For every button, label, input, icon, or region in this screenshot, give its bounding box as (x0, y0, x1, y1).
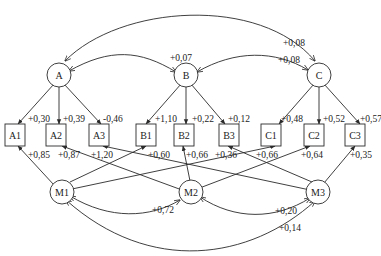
label-corr-m1-m3: +0,14 (279, 223, 301, 233)
factor-b[interactable]: B (174, 63, 198, 87)
label-m1-a1: +0,85 (28, 150, 50, 160)
label-a-a3: -0,46 (103, 114, 123, 124)
method-m3[interactable]: M3 (306, 180, 330, 204)
method-m3-label: M3 (311, 187, 325, 198)
indicator-c2-label: C2 (308, 130, 320, 141)
label-m1-b1: +0,60 (148, 150, 170, 160)
indicator-a1-label: A1 (9, 130, 21, 141)
indicator-a2-label: A2 (50, 130, 62, 141)
indicator-c2[interactable]: C2 (304, 124, 324, 146)
indicator-a3-label: A3 (93, 130, 105, 141)
method-m1[interactable]: M1 (50, 180, 74, 204)
label-m3-b3: +0,36 (215, 150, 237, 160)
indicator-c1-label: C1 (265, 130, 277, 141)
label-b-b2: +0,22 (192, 114, 214, 124)
indicator-c3-label: C3 (349, 130, 361, 141)
label-m3-c3: +0,35 (350, 150, 372, 160)
method-factors: M1 M2 M3 (50, 180, 330, 204)
label-c-c1: +0,48 (281, 114, 303, 124)
indicator-b3[interactable]: B3 (219, 124, 239, 146)
indicator-a2[interactable]: A2 (46, 124, 66, 146)
label-corr-b-c: +0,08 (278, 55, 300, 65)
indicator-b3-label: B3 (223, 130, 235, 141)
indicator-c1[interactable]: C1 (261, 124, 281, 146)
indicator-b1-label: B1 (140, 130, 152, 141)
indicators: A1 A2 A3 B1 B2 B3 C1 C2 C3 (5, 124, 365, 146)
label-m2-b2: +0,66 (186, 150, 208, 160)
label-m1-c1: +0,66 (256, 150, 278, 160)
method-loading-labels: +0,85 +0,87 +1,20 +0,60 +0,66 +0,36 +0,6… (28, 150, 372, 160)
factor-a-label: A (55, 70, 63, 81)
indicator-a3[interactable]: A3 (89, 124, 109, 146)
factor-b-label: B (183, 70, 190, 81)
indicator-b2-label: B2 (178, 130, 190, 141)
latent-factors: A B C (47, 63, 331, 87)
indicator-b2[interactable]: B2 (174, 124, 194, 146)
trait-correlation-labels: +0,07 +0,08 +0,08 (170, 38, 305, 65)
label-corr-m2-m3: +0,20 (275, 206, 297, 216)
method-m2-label: M2 (184, 187, 198, 198)
factor-a[interactable]: A (47, 63, 71, 87)
label-c-c3: +0,57 (360, 114, 381, 124)
label-corr-m1-m2: +0,72 (152, 205, 174, 215)
method-m2[interactable]: M2 (179, 180, 203, 204)
label-m3-a3: +1,20 (91, 150, 113, 160)
label-a-a2: +0,39 (63, 114, 85, 124)
method-m1-label: M1 (55, 187, 69, 198)
indicator-a1[interactable]: A1 (5, 124, 25, 146)
correlation-a-b (69, 55, 176, 72)
factor-c[interactable]: C (307, 63, 331, 87)
label-c-c2: +0,52 (323, 114, 345, 124)
factor-c-label: C (316, 70, 323, 81)
indicator-b1[interactable]: B1 (136, 124, 156, 146)
method-correlation-labels: +0,72 +0,20 +0,14 (152, 205, 301, 233)
trait-loading-labels: +0,30 +0,39 -0,46 +1,10 +0,22 +0,12 +0,4… (28, 114, 381, 124)
path-diagram: A B C A1 A2 A3 B1 B2 B3 C1 C2 C3 M1 M2 (0, 0, 381, 256)
label-a-a1: +0,30 (28, 114, 50, 124)
label-corr-a-c: +0,08 (283, 38, 305, 48)
label-b-b1: +1,10 (155, 114, 177, 124)
label-m2-c2: +0,64 (301, 150, 323, 160)
indicator-c3[interactable]: C3 (345, 124, 365, 146)
label-corr-a-b: +0,07 (170, 53, 192, 63)
label-b-b3: +0,12 (228, 114, 250, 124)
label-m2-a2: +0,87 (58, 150, 80, 160)
